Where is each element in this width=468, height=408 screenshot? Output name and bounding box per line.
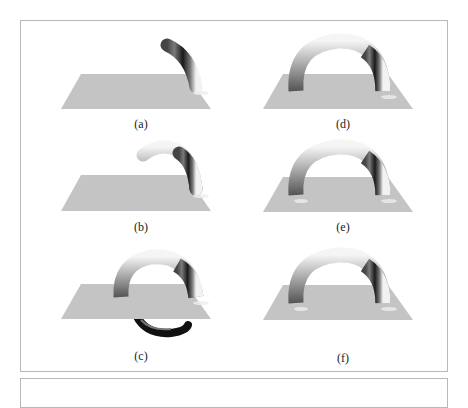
- figure-frame: (a) (b) (c) (d): [20, 20, 448, 372]
- panel-c-graphic: [51, 235, 231, 365]
- next-figure-frame: [20, 378, 448, 408]
- panel-label-c: (c): [51, 349, 231, 364]
- panel-f-graphic: [253, 235, 433, 355]
- panel-label-a: (a): [51, 117, 231, 132]
- panel-d: (d): [253, 21, 433, 141]
- panel-a: (a): [51, 21, 231, 141]
- panel-f: (f): [253, 235, 433, 355]
- plane-surface: [263, 74, 413, 109]
- panel-label-e: (e): [253, 220, 433, 235]
- panel-label-d: (d): [253, 117, 433, 132]
- panel-label-b: (b): [51, 220, 231, 235]
- plane-surface: [263, 285, 413, 320]
- plane-surface: [263, 177, 413, 212]
- panel-e: (e): [253, 131, 433, 251]
- panel-label-f: (f): [253, 351, 433, 366]
- panel-c: (c): [51, 235, 231, 355]
- panel-b: (b): [51, 131, 231, 251]
